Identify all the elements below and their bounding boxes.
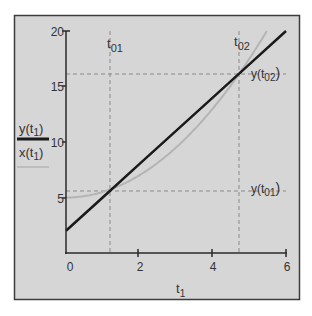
chart-figure: 20 15 10 5 0 2 4 6 t1 t01 t02 y(t01) y(t…	[0, 0, 312, 316]
y-tick-label: 10	[51, 136, 65, 150]
x-tick-label: 2	[137, 260, 144, 274]
y-tick-label: 20	[51, 25, 65, 39]
y-tick-label: 15	[51, 80, 65, 94]
legend-x-label: x(t1)	[19, 145, 43, 162]
legend-y-label: y(t1)	[19, 121, 43, 138]
y-tick-label: 5	[57, 192, 64, 206]
x-tick-label: 6	[284, 260, 291, 274]
x-tick-label: 0	[67, 260, 74, 274]
x-tick-label: 4	[210, 260, 217, 274]
